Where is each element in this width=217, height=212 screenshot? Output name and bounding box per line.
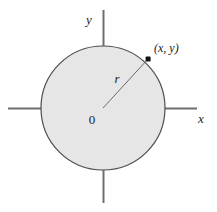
point-marker [146,57,151,62]
figure-canvas: y x 0 r (x, y) [0,0,217,212]
point-coordinate-label: (x, y) [154,41,179,55]
x-axis-label: x [197,111,204,126]
origin-label: 0 [89,112,96,127]
y-axis-label: y [84,12,92,27]
circle-figure: y x 0 r (x, y) [0,0,217,212]
